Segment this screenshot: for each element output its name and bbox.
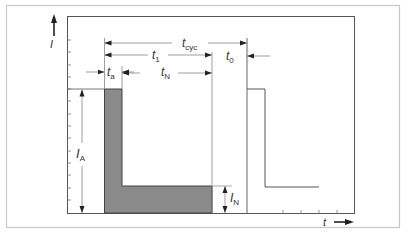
pulse-diagram: I t tcyc t1 t0 tN ta IA IN — [0, 0, 407, 236]
y-axis-label: I — [50, 38, 53, 50]
